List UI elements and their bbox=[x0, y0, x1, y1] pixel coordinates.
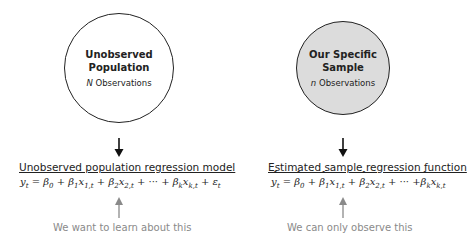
population-model-heading: Unobserved population regression model bbox=[19, 161, 235, 173]
sample-note: We can only observe this bbox=[287, 222, 413, 233]
arrow-down-icon bbox=[113, 138, 125, 158]
population-title-line1: Unobserved bbox=[85, 48, 152, 61]
arrow-up-icon bbox=[113, 197, 125, 219]
population-circle: Unobserved Population N Observations bbox=[64, 13, 174, 123]
population-regression-formula: yt = β0 + β1x1,t + β2x2,t + ··· + βkxk,t… bbox=[20, 176, 221, 190]
arrow-down-icon bbox=[337, 138, 349, 158]
sample-regression-formula: yt = β0 + β1x1,t + β2x2,t + ··· +βkxk,t bbox=[271, 176, 446, 190]
sample-title-line2: Sample bbox=[322, 61, 364, 74]
sample-circle: Our Specific Sample n Observations bbox=[296, 21, 390, 115]
population-note: We want to learn about this bbox=[53, 222, 191, 233]
sample-title-line1: Our Specific bbox=[309, 48, 377, 61]
sample-observations: n Observations bbox=[311, 78, 375, 88]
arrow-up-icon bbox=[337, 197, 349, 219]
population-observations: N Observations bbox=[86, 78, 151, 88]
population-title-line2: Population bbox=[89, 61, 150, 74]
